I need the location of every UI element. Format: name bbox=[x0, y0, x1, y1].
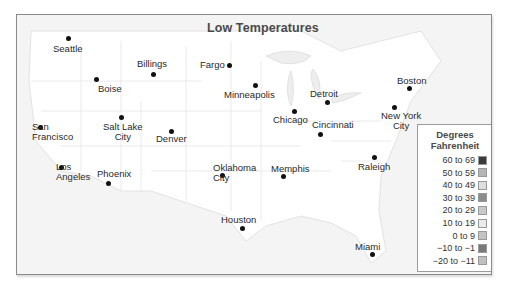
city-dot-icon bbox=[372, 155, 377, 160]
legend-title-line2: Fahrenheit bbox=[418, 140, 492, 151]
legend-swatch-icon bbox=[478, 156, 487, 165]
legend-item-label: 20 to 29 bbox=[442, 205, 475, 215]
city-label: Cincinnati bbox=[312, 120, 354, 130]
legend-item-label: 0 to 9 bbox=[452, 231, 475, 241]
legend-item: 20 to 29 bbox=[442, 205, 487, 215]
city-label: SanFrancisco bbox=[32, 122, 73, 142]
city-dot-icon bbox=[392, 105, 397, 110]
legend-title: Degrees Fahrenheit bbox=[418, 129, 492, 151]
city-dot-icon bbox=[240, 226, 245, 231]
city-dot-icon bbox=[151, 72, 156, 77]
city-dot-icon bbox=[370, 252, 375, 257]
city-label: Chicago bbox=[273, 115, 308, 125]
legend-swatch-icon bbox=[478, 168, 487, 177]
legend-swatch-icon bbox=[478, 181, 487, 190]
city-label: Raleigh bbox=[358, 162, 390, 172]
city-label: Phoenix bbox=[97, 169, 131, 179]
city-label: Fargo bbox=[200, 60, 225, 70]
legend-swatch-icon bbox=[478, 193, 487, 202]
legend: Degrees Fahrenheit 60 to 6950 to 5940 to… bbox=[417, 124, 492, 272]
city-label: Minneapolis bbox=[224, 90, 275, 100]
legend-item-label: 50 to 59 bbox=[442, 168, 475, 178]
legend-item-label: −20 to −11 bbox=[433, 256, 475, 266]
city-dot-icon bbox=[66, 36, 71, 41]
city-dot-icon bbox=[407, 86, 412, 91]
legend-swatch-icon bbox=[478, 244, 487, 253]
legend-item-label: −10 to −1 bbox=[437, 243, 475, 253]
legend-swatch-icon bbox=[478, 256, 487, 265]
city-label: LosAngeles bbox=[56, 162, 90, 182]
legend-item-label: 10 to 19 bbox=[442, 218, 475, 228]
legend-item: 50 to 59 bbox=[442, 168, 487, 178]
legend-item: 30 to 39 bbox=[442, 193, 487, 203]
city-label: Miami bbox=[355, 242, 380, 252]
legend-item: 0 to 9 bbox=[452, 231, 487, 241]
city-dot-icon bbox=[318, 132, 323, 137]
city-dot-icon bbox=[106, 181, 111, 186]
legend-item: 40 to 49 bbox=[442, 180, 487, 190]
city-dot-icon bbox=[292, 109, 297, 114]
city-label: Seattle bbox=[53, 44, 83, 54]
city-label: Memphis bbox=[271, 164, 310, 174]
city-dot-icon bbox=[119, 115, 124, 120]
city-label: Boston bbox=[397, 76, 427, 86]
city-dot-icon bbox=[94, 77, 99, 82]
legend-item: −10 to −1 bbox=[437, 243, 487, 253]
legend-item-label: 40 to 49 bbox=[442, 180, 475, 190]
city-label: Detroit bbox=[310, 89, 338, 99]
city-label: Houston bbox=[221, 215, 256, 225]
city-label: Boise bbox=[98, 84, 122, 94]
map-title: Low Temperatures bbox=[207, 21, 319, 35]
legend-item: 10 to 19 bbox=[442, 218, 487, 228]
city-dot-icon bbox=[281, 174, 286, 179]
city-label: Denver bbox=[156, 134, 187, 144]
city-dot-icon bbox=[253, 83, 258, 88]
legend-swatch-icon bbox=[478, 206, 487, 215]
city-label: New YorkCity bbox=[381, 111, 421, 131]
city-dot-icon bbox=[325, 100, 330, 105]
map-frame: Low Temperatures SeattleBillingsFargoBoi… bbox=[16, 14, 492, 275]
legend-item: 60 to 69 bbox=[442, 155, 487, 165]
city-label: Salt LakeCity bbox=[103, 122, 143, 142]
legend-swatch-icon bbox=[478, 219, 487, 228]
legend-swatch-icon bbox=[478, 231, 487, 240]
legend-item-label: 60 to 69 bbox=[442, 155, 475, 165]
legend-item: −20 to −11 bbox=[433, 256, 487, 266]
legend-title-line1: Degrees bbox=[418, 129, 492, 140]
legend-item-label: 30 to 39 bbox=[442, 193, 475, 203]
city-dot-icon bbox=[227, 63, 232, 68]
city-label: OklahomaCity bbox=[213, 163, 256, 183]
city-label: Billings bbox=[137, 59, 167, 69]
